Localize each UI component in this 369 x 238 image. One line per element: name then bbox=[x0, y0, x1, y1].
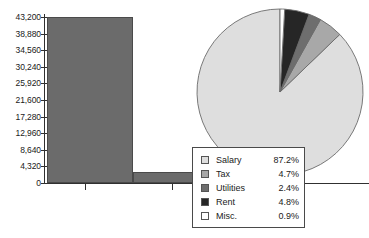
chart-canvas: 43,20038,88034,56030,24025,92021,60017,2… bbox=[0, 0, 369, 238]
y-axis-label: 43,200 bbox=[16, 13, 41, 21]
x-axis-tick bbox=[172, 184, 173, 190]
legend-item-label: Misc. bbox=[216, 211, 266, 221]
y-axis-label: 25,920 bbox=[16, 79, 41, 87]
bar-chart: 43,20038,88034,56030,24025,92021,60017,2… bbox=[0, 0, 200, 200]
legend-item-value: 4.7% bbox=[266, 169, 299, 179]
legend-swatch-icon bbox=[201, 156, 209, 164]
legend-swatch-icon bbox=[201, 212, 209, 220]
bar bbox=[133, 172, 197, 183]
legend-item-label: Tax bbox=[216, 169, 266, 179]
legend-item-value: 87.2% bbox=[266, 155, 299, 165]
legend-item: Misc.0.9% bbox=[193, 209, 304, 223]
y-axis-tick bbox=[41, 183, 47, 184]
legend-swatch-icon bbox=[201, 184, 209, 192]
y-axis-label: 8,640 bbox=[20, 146, 41, 154]
y-axis-label: 38,880 bbox=[16, 30, 41, 38]
legend-item-value: 0.9% bbox=[266, 211, 299, 221]
y-axis-label: 4,320 bbox=[20, 162, 41, 170]
pie-legend: Salary87.2%Tax4.7%Utilities2.4%Rent4.8%M… bbox=[192, 147, 305, 228]
legend-item-value: 4.8% bbox=[266, 197, 299, 207]
legend-item: Utilities2.4% bbox=[193, 181, 304, 195]
legend-swatch-icon bbox=[201, 170, 209, 178]
legend-item: Tax4.7% bbox=[193, 167, 304, 181]
legend-item: Rent4.8% bbox=[193, 195, 304, 209]
legend-item: Salary87.2% bbox=[193, 153, 304, 167]
y-axis-label: 30,240 bbox=[16, 63, 41, 71]
y-axis-label: 21,600 bbox=[16, 96, 41, 104]
y-axis-tick-labels: 43,20038,88034,56030,24025,92021,60017,2… bbox=[0, 0, 41, 200]
bar bbox=[47, 17, 133, 183]
y-axis-line bbox=[44, 14, 45, 184]
legend-item-label: Rent bbox=[216, 197, 266, 207]
y-axis-label: 12,960 bbox=[16, 129, 41, 137]
legend-swatch-icon bbox=[201, 198, 209, 206]
y-axis-label: 17,280 bbox=[16, 113, 41, 121]
legend-item-label: Utilities bbox=[216, 183, 266, 193]
y-axis-label: 34,560 bbox=[16, 46, 41, 54]
legend-item-label: Salary bbox=[216, 155, 266, 165]
legend-item-value: 2.4% bbox=[266, 183, 299, 193]
x-axis-tick bbox=[85, 184, 86, 190]
